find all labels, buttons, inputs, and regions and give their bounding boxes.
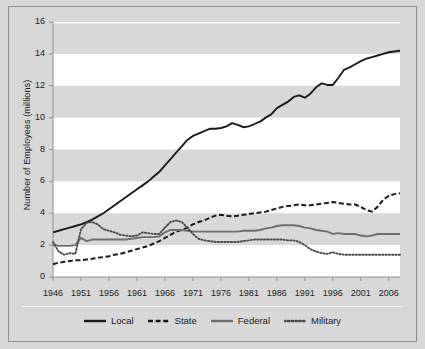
legend-separator [22,306,403,307]
grid-band-top-line [53,22,400,23]
grid-band [53,181,400,213]
legend-swatch-state-icon [148,316,170,326]
legend-item-federal[interactable]: Federal [211,315,270,326]
legend-swatch-military-icon [284,316,306,326]
chart-figure: Number of Employees (millions) 024681012… [0,0,425,349]
legend-swatch-local-icon [84,316,106,326]
chart-legend: LocalStateFederalMilitary [0,315,425,326]
chart-plot-area [0,0,425,349]
legend-item-military[interactable]: Military [284,315,341,326]
legend-label-federal: Federal [238,315,270,326]
grid-band [53,118,400,150]
legend-label-military: Military [311,315,341,326]
plot-wrapper: Number of Employees (millions) 024681012… [0,0,425,349]
legend-swatch-federal-icon [211,316,233,326]
legend-label-state: State [175,315,197,326]
legend-item-local[interactable]: Local [84,315,134,326]
legend-label-local: Local [111,315,134,326]
grid-band [53,245,400,277]
legend-item-state[interactable]: State [148,315,197,326]
grid-band [53,54,400,86]
